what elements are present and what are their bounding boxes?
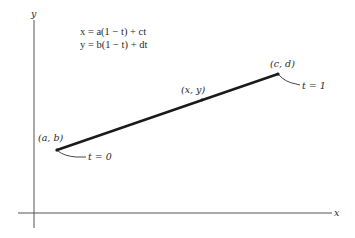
parametric-line-diagram: y x (a, b) (x, y) (c, d) t = 0 t = 1 — [0, 0, 355, 238]
y-axis-label: y — [30, 8, 37, 19]
line-segment — [57, 74, 278, 150]
t1-leader-line — [279, 75, 300, 85]
t1-annotation: t = 1 — [302, 80, 326, 91]
start-point-label: (a, b) — [38, 132, 63, 143]
t0-annotation: t = 0 — [88, 151, 112, 162]
mid-point-label: (x, y) — [181, 84, 205, 95]
equation-x: x = a(1 − t) + ct — [80, 26, 146, 38]
mid-point-marker — [201, 99, 204, 102]
x-axis-label: x — [334, 207, 340, 218]
equation-y: y = b(1 − t) + dt — [80, 39, 147, 51]
end-point-label: (c, d) — [270, 58, 295, 69]
t0-leader-line — [58, 151, 86, 157]
